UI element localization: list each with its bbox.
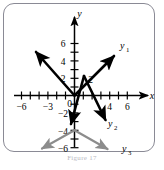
y-tick-label--6: −6 (58, 144, 68, 154)
figure-caption: Figure 17 (0, 154, 164, 162)
origin-label: 0 (67, 99, 72, 109)
annotation-vertex-2: 2 (88, 75, 93, 85)
x-axis-label: x (149, 90, 155, 101)
y-tick-label--2: −2 (58, 109, 68, 119)
series-label-y2-subscript: 2 (114, 124, 118, 131)
series-y3-right-branch (75, 130, 108, 149)
coordinate-plot: x y −6 −3 4 6 0 6 4 2 −2 −4 −6 2 (0, 0, 164, 170)
x-tick-label-6: 6 (125, 102, 130, 112)
series-label-y1-text: y (119, 40, 125, 51)
series-label-y3-text: y (121, 143, 127, 154)
y-tick-label-4: 4 (61, 57, 66, 67)
y-tick-label-6: 6 (61, 39, 66, 49)
y-axis-label: y (76, 8, 82, 19)
x-tick-label--3: −3 (43, 102, 53, 112)
series-label-y1-subscript: 1 (126, 46, 129, 53)
series-label-y1: y 1 (119, 40, 129, 53)
axis-lines (14, 17, 148, 147)
series-label-y2-text: y (107, 118, 113, 129)
x-tick-label-4: 4 (107, 102, 112, 112)
figure-container: x y −6 −3 4 6 0 6 4 2 −2 −4 −6 2 (0, 0, 164, 170)
series-y2-left-branch (71, 76, 84, 124)
x-tick-label--6: −6 (16, 102, 26, 112)
series-label-y2: y 2 (107, 118, 118, 131)
series-y1-left-branch (36, 52, 75, 96)
